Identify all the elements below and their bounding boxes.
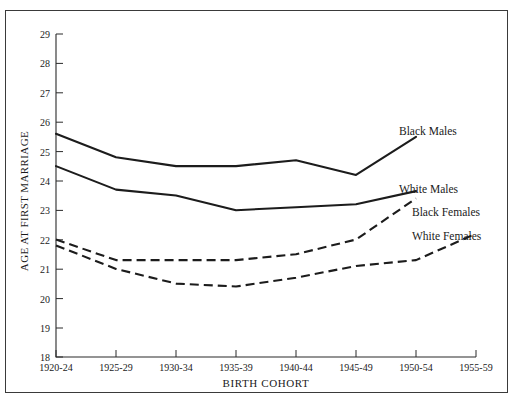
y-tick-label: 21 bbox=[40, 264, 50, 275]
figure-container: AGE AT FIRST MARRIAGE 29 28 27 26 25 24 … bbox=[0, 0, 519, 401]
y-tick-label: 24 bbox=[40, 176, 50, 187]
y-tick-label: 26 bbox=[40, 117, 50, 128]
x-tick-label: 1930-34 bbox=[159, 362, 192, 373]
x-tick-label: 1940-44 bbox=[279, 362, 312, 373]
y-tick-marks bbox=[56, 34, 63, 357]
line-chart-plot: AGE AT FIRST MARRIAGE 29 28 27 26 25 24 … bbox=[6, 11, 509, 394]
series-label-black-females: Black Females bbox=[412, 206, 481, 218]
y-tick-label: 29 bbox=[40, 29, 50, 40]
x-tick-labels: 1920-24 1925-29 1930-34 1935-39 1940-44 … bbox=[39, 362, 492, 373]
y-tick-label: 25 bbox=[40, 147, 50, 158]
y-tick-label: 28 bbox=[40, 58, 50, 69]
x-tick-marks bbox=[56, 350, 476, 357]
x-tick-label: 1935-39 bbox=[219, 362, 252, 373]
x-axis-label: BIRTH COHORT bbox=[223, 377, 310, 389]
series-label-black-males: Black Males bbox=[399, 125, 457, 137]
x-tick-label: 1945-49 bbox=[339, 362, 372, 373]
y-tick-labels: 29 28 27 26 25 24 23 22 21 20 19 18 bbox=[40, 29, 50, 363]
y-tick-label: 23 bbox=[40, 205, 50, 216]
series-label-white-males: White Males bbox=[399, 183, 459, 195]
y-tick-label: 27 bbox=[40, 88, 50, 99]
x-tick-label: 1920-24 bbox=[39, 362, 72, 373]
x-tick-label: 1950-54 bbox=[399, 362, 432, 373]
series-label-white-females: White Females bbox=[412, 230, 482, 242]
y-tick-label: 19 bbox=[40, 323, 50, 334]
x-tick-label: 1925-29 bbox=[99, 362, 132, 373]
x-tick-label: 1955-59 bbox=[459, 362, 492, 373]
series-line-white-males bbox=[56, 166, 416, 210]
y-tick-label: 22 bbox=[40, 235, 50, 246]
series-labels-group: Black Males White Males Black Females Wh… bbox=[399, 125, 482, 242]
axis-lines bbox=[56, 34, 476, 357]
y-axis-label: AGE AT FIRST MARRIAGE bbox=[18, 131, 30, 271]
series-line-black-females bbox=[56, 198, 416, 260]
y-tick-label: 20 bbox=[40, 294, 50, 305]
figure-frame: AGE AT FIRST MARRIAGE 29 28 27 26 25 24 … bbox=[5, 10, 508, 393]
series-line-black-males bbox=[56, 134, 416, 175]
